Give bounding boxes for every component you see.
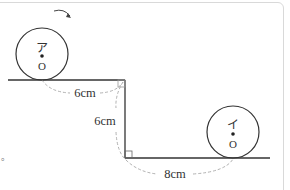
dimension-label-vertical: 6cm (94, 114, 116, 128)
circle-b-center-dot (231, 132, 235, 136)
stray-mark: 。 (1, 150, 10, 163)
arc-bottom-right (193, 159, 233, 174)
clockwise-arrow-icon (54, 10, 71, 18)
dimension-label-top: 6cm (74, 86, 96, 100)
circle-a: ア O (16, 28, 68, 80)
circle-b: イ O (207, 106, 259, 158)
circle-a-center-dot (40, 54, 44, 58)
arc-bottom-left (126, 160, 157, 174)
circle-b-center-label: O (229, 138, 237, 150)
circle-b-label: イ (227, 118, 239, 132)
right-angle-marker-top (118, 80, 125, 87)
dimension-arcs (42, 80, 233, 174)
circle-a-center-label: O (38, 60, 46, 72)
arc-top-left (42, 80, 70, 93)
right-angle-marker-bottom (125, 151, 132, 158)
circle-a-label: ア (36, 41, 48, 55)
rolling-circle-diagram: 6cm 6cm 8cm ア O イ O (0, 0, 290, 190)
dimension-label-bottom: 8cm (164, 167, 186, 181)
